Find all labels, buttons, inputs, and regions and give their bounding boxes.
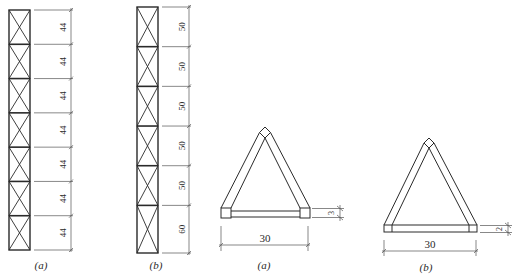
section-b-bottom-chord [384, 225, 477, 232]
mast-a [9, 10, 30, 250]
panel-dimension-label: 50 [177, 101, 187, 111]
mast-b [137, 7, 158, 253]
mast-a-panels [9, 10, 30, 250]
section-a-left-node [221, 208, 231, 218]
panel-dimension-label: 50 [177, 22, 187, 32]
panel-dimension-label: 44 [58, 228, 68, 238]
mast-b-dimension-labels: 505050505060 [177, 22, 187, 234]
panel-dimension-label: 44 [58, 159, 68, 169]
section-b-triangle [384, 138, 477, 232]
section-b-left-leg-outer [384, 143, 424, 225]
panel-dimension-label: 50 [177, 181, 187, 191]
section-a-caption: (a) [258, 259, 271, 272]
section-a-right-leg-outer [271, 133, 311, 209]
section-b-caption: (b) [420, 261, 433, 274]
section-b-right-leg-outer [434, 143, 477, 225]
panel-dimension-label: 44 [58, 56, 68, 66]
mast-b-frame [137, 7, 158, 253]
mast-a-caption: (a) [35, 259, 48, 272]
section-b-left-leg-inner [392, 148, 429, 225]
section-a-triangle [221, 127, 310, 218]
section-b-apex [424, 138, 434, 143]
diagram-canvas: 44444444444444 (a) 505050505060 (b) [0, 0, 514, 278]
panel-dimension-label: 44 [58, 91, 68, 101]
mast-a-dimension-labels: 44444444444444 [58, 22, 68, 237]
section-a-right-node [300, 208, 310, 218]
mast-b-panels [137, 7, 158, 253]
section-b-width-label: 30 [425, 238, 437, 250]
panel-dimension-label: 50 [177, 62, 187, 72]
section-a-apex-node [260, 127, 271, 138]
panel-dimension-label: 50 [177, 141, 187, 151]
section-b-depth-label: 2 [495, 227, 504, 231]
panel-dimension-label: 44 [58, 22, 68, 32]
section-a-width-label: 30 [260, 232, 272, 244]
section-b-apex-mitre-left [424, 143, 429, 148]
panel-dimension-label: 44 [58, 194, 68, 204]
section-a-dimensions [219, 205, 344, 251]
panel-dimension-label: 44 [58, 125, 68, 135]
section-b-right-leg-inner [429, 148, 469, 225]
section-a-left-leg-inner [231, 138, 265, 208]
section-a-right-leg-inner [265, 138, 300, 208]
mast-b-dimensions [162, 5, 191, 255]
section-a-depth-label: 3 [327, 211, 336, 215]
panel-dimension-label: 60 [177, 224, 187, 234]
section-a-left-leg-outer [221, 133, 260, 209]
mast-b-caption: (b) [150, 259, 163, 272]
section-b-apex-mitre-right [429, 143, 434, 148]
